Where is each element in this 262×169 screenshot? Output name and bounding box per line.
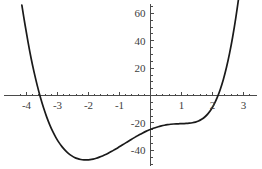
x-tick-label: -1 <box>115 99 124 111</box>
axes-group <box>4 4 257 166</box>
x-tick-label: -3 <box>53 99 63 111</box>
x-tick-label: 2 <box>210 99 216 111</box>
curve-quartic <box>22 0 245 160</box>
chart-canvas: -4-3-2-1123 -40-20204060 <box>0 0 262 169</box>
x-tick-label: -2 <box>84 99 93 111</box>
y-tick-label: 40 <box>135 35 147 47</box>
x-tick-label: 1 <box>179 99 185 111</box>
y-tick-label: 60 <box>135 7 147 19</box>
y-axis-tick-labels: -40-20204060 <box>131 7 146 156</box>
y-tick-label: 20 <box>135 62 147 74</box>
y-tick-label: -20 <box>131 117 146 129</box>
plot-figure: -4-3-2-1123 -40-20204060 <box>0 0 262 169</box>
x-axis-tick-labels: -4-3-2-1123 <box>22 99 247 111</box>
x-tick-label: 3 <box>241 99 247 111</box>
y-tick-label: -40 <box>131 144 146 156</box>
x-tick-label: -4 <box>22 99 32 111</box>
